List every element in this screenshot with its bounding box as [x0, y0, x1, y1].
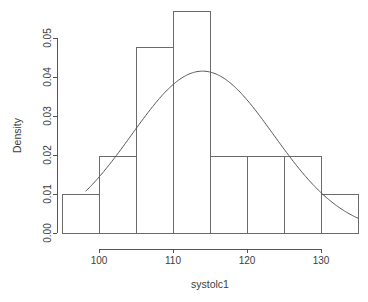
y-tick-label: 0.01: [42, 184, 53, 204]
x-axis-title: systolc1: [191, 278, 229, 290]
histogram-bar: [321, 195, 358, 233]
chart-canvas: 0.000.010.020.030.040.05Density100110120…: [0, 0, 368, 302]
histogram-bar: [247, 157, 284, 233]
x-tick-label: 130: [313, 255, 330, 266]
histogram-bar: [62, 195, 99, 233]
histogram-bar: [210, 157, 247, 233]
histogram-bar: [284, 157, 321, 233]
y-tick-label: 0.00: [42, 223, 53, 243]
y-tick-label: 0.05: [42, 28, 53, 48]
x-tick-label: 120: [239, 255, 256, 266]
y-tick-label: 0.04: [42, 67, 53, 87]
x-tick-label: 100: [91, 255, 108, 266]
histogram-bar: [99, 157, 136, 233]
x-tick-label: 110: [165, 255, 181, 266]
density-histogram-plot: 0.000.010.020.030.040.05Density100110120…: [0, 0, 368, 302]
histogram-bars: [62, 12, 358, 233]
y-axis-title: Density: [11, 117, 23, 153]
histogram-bar: [173, 12, 210, 233]
y-tick-label: 0.02: [42, 145, 53, 165]
normal-density-curve: [86, 71, 358, 218]
histogram-bar: [136, 47, 173, 233]
y-tick-label: 0.03: [42, 106, 53, 126]
